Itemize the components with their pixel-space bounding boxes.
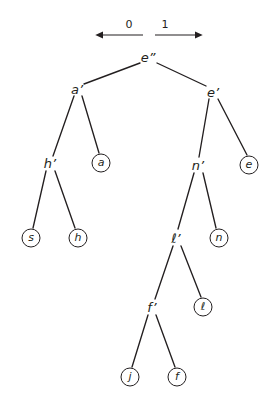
tree-edge [53,96,74,156]
tree-edge [55,171,75,228]
tree-leaf-label: j [128,371,131,382]
tree-leaf-label: f [175,371,179,382]
tree-edge [156,315,175,367]
tree-internal-node: ℓ’ [171,232,181,245]
tree-edge [157,63,206,86]
tree-leaf-label: h [75,232,82,243]
tree-leaf-node: n [210,229,229,248]
tree-edge [84,63,140,84]
tree-leaf-node: f [168,368,187,387]
tree-internal-node: f’ [147,301,156,314]
right-branch-bit-label: 1 [162,19,169,30]
tree-internal-node: h’ [44,157,56,170]
tree-leaf-label: a [98,157,105,168]
tree-edge [218,99,247,155]
tree-leaf-node: j [121,368,140,387]
tree-leaf-label: e [246,159,253,170]
tree-internal-node: e” [141,51,156,64]
tree-edge [181,246,201,297]
tree-edge [155,246,173,299]
tree-edge [178,173,194,229]
tree-leaf-node: a [92,154,111,173]
tree-internal-node: a’ [71,83,83,96]
tree-edge [82,96,99,153]
binary-tree-diagram: e”a’e’h’an’eshℓ’nf’ℓjf 0 1 [0,0,280,410]
left-branch-bit-label: 0 [126,19,133,30]
tree-internal-node: n’ [192,159,204,172]
tree-leaf-node: ℓ [194,298,213,317]
tree-edge [33,171,46,228]
tree-leaf-label: s [28,232,34,243]
tree-edge [199,99,209,157]
tree-leaf-label: n [216,232,223,243]
tree-leaf-node: e [240,156,259,175]
tree-leaf-label: ℓ [201,301,206,312]
tree-leaf-node: s [22,229,41,248]
tree-edge [203,173,216,228]
tree-leaf-node: h [69,229,88,248]
tree-edge [132,315,148,367]
tree-internal-node: e’ [207,86,219,99]
